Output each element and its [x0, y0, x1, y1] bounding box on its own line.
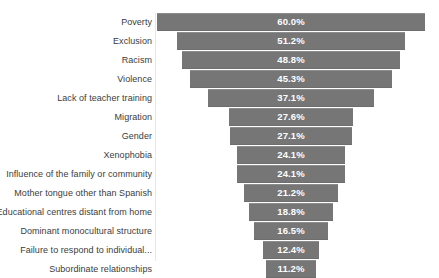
- plot-area: Poverty60.0%Exclusion51.2%Racism48.8%Vio…: [0, 13, 439, 267]
- funnel-row: Subordinate relationships11.2%: [0, 260, 439, 278]
- funnel-row: Migration27.6%: [0, 108, 439, 126]
- funnel-row: Violence45.3%: [0, 70, 439, 88]
- category-label: Migration: [115, 108, 152, 126]
- funnel-row: Lack of teacher training37.1%: [0, 89, 439, 107]
- funnel-row: Exclusion51.2%: [0, 32, 439, 50]
- bar-track: 45.3%: [157, 70, 425, 88]
- bar-track: 27.6%: [157, 108, 425, 126]
- category-label: Mother tongue other than Spanish: [14, 184, 152, 202]
- funnel-row: Mother tongue other than Spanish21.2%: [0, 184, 439, 202]
- category-label: Racism: [122, 51, 152, 69]
- bar-rows: Poverty60.0%Exclusion51.2%Racism48.8%Vio…: [0, 13, 439, 278]
- category-label: Violence: [117, 70, 152, 88]
- bar-track: 11.2%: [157, 260, 425, 278]
- funnel-row: Educational centres distant from home18.…: [0, 203, 439, 221]
- funnel-row: Xenophobia24.1%: [0, 146, 439, 164]
- category-label: Subordinate relationships: [49, 260, 152, 278]
- bar-value-label: 12.4%: [263, 241, 318, 259]
- category-label: Poverty: [121, 13, 152, 31]
- funnel-row: Poverty60.0%: [0, 13, 439, 31]
- funnel-row: Failure to respond to individual...12.4%: [0, 241, 439, 259]
- bar-track: 60.0%: [157, 13, 425, 31]
- bar-track: 51.2%: [157, 32, 425, 50]
- category-label: Exclusion: [113, 32, 152, 50]
- bar-track: 24.1%: [157, 165, 425, 183]
- bar-track: 12.4%: [157, 241, 425, 259]
- bar-value-label: 24.1%: [237, 165, 345, 183]
- bar-value-label: 60.0%: [157, 13, 425, 31]
- bar-track: 21.2%: [157, 184, 425, 202]
- category-label: Influence of the family or community: [6, 165, 152, 183]
- category-label: Dominant monocultural structure: [20, 222, 152, 240]
- bar-value-label: 48.8%: [182, 51, 400, 69]
- bar-value-label: 24.1%: [237, 146, 345, 164]
- funnel-row: Influence of the family or community24.1…: [0, 165, 439, 183]
- bar-value-label: 27.6%: [229, 108, 352, 126]
- bar-value-label: 27.1%: [230, 127, 351, 145]
- category-label: Failure to respond to individual...: [20, 241, 152, 259]
- category-label: Educational centres distant from home: [0, 203, 152, 221]
- bar-track: 37.1%: [157, 89, 425, 107]
- bar-track: 24.1%: [157, 146, 425, 164]
- category-label: Lack of teacher training: [57, 89, 152, 107]
- bar-value-label: 18.8%: [249, 203, 333, 221]
- bar-track: 48.8%: [157, 51, 425, 69]
- bar-track: 18.8%: [157, 203, 425, 221]
- funnel-row: Racism48.8%: [0, 51, 439, 69]
- bar-value-label: 37.1%: [208, 89, 374, 107]
- bar-value-label: 21.2%: [244, 184, 339, 202]
- bar-value-label: 51.2%: [177, 32, 406, 50]
- category-label: Gender: [122, 127, 152, 145]
- category-label: Xenophobia: [103, 146, 152, 164]
- funnel-row: Gender27.1%: [0, 127, 439, 145]
- bar-track: 27.1%: [157, 127, 425, 145]
- bar-value-label: 45.3%: [190, 70, 392, 88]
- bar-track: 16.5%: [157, 222, 425, 240]
- bar-value-label: 16.5%: [254, 222, 328, 240]
- funnel-row: Dominant monocultural structure16.5%: [0, 222, 439, 240]
- bar-value-label: 11.2%: [266, 260, 316, 278]
